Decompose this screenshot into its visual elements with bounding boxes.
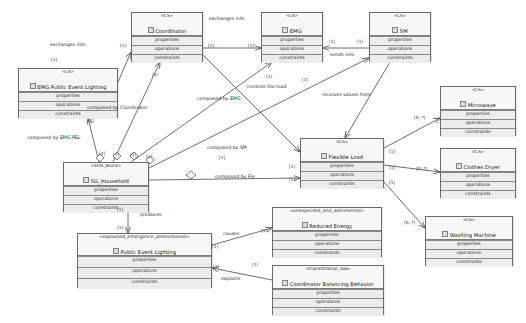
class-name-flexible_load: Flexible Load <box>328 154 363 160</box>
class-compartment-properties-sg_household[interactable]: properties <box>64 186 148 195</box>
class-header-clothes_dryer: «CS»Clothes Dryer <box>441 149 515 172</box>
class-header-microwave: «CS»Microwave <box>441 87 515 110</box>
class-compartment-properties-emg[interactable]: properties <box>262 36 322 45</box>
class-compartment-operations-coordinator[interactable]: operations <box>132 45 202 54</box>
class-compartment-properties-washing_machine[interactable]: properties <box>426 240 512 249</box>
class-compartment-operations-microwave[interactable]: operations <box>441 119 515 128</box>
class-name-row-microwave: Microwave <box>442 93 514 110</box>
class-compartment-operations-sm[interactable]: operations <box>370 45 430 54</box>
class-compartment-properties-sm[interactable]: properties <box>370 36 430 45</box>
multiplicity-m-micro: [0..*] <box>414 116 425 120</box>
class-compartment-constraints-emg_public_event_lighting[interactable]: constraints <box>19 110 117 119</box>
class-box-microwave[interactable]: «CS»Microwavepropertiesoperationsconstra… <box>440 86 516 136</box>
block-icon <box>282 27 288 33</box>
multiplicity-m-coord-left: [1] <box>120 44 126 48</box>
class-compartment-constraints-reduced_energy[interactable]: constraints <box>273 249 381 258</box>
class-compartment-operations-washing_machine[interactable]: operations <box>426 249 512 258</box>
multiplicity-m-emg-left: [1] <box>248 44 254 48</box>
class-compartment-constraints-coordinator[interactable]: constraints <box>132 54 202 63</box>
edge-label-produces: produces <box>140 213 162 218</box>
multiplicity-m-house-top-a: [4] <box>99 152 105 156</box>
class-header-public_event_lighting: «explained_emergence_phenomenon»Public E… <box>78 234 211 256</box>
class-box-flexible_load[interactable]: «CS»Flexible Loadpropertiesoperationscon… <box>300 138 384 188</box>
class-compartment-properties-coordinator[interactable]: properties <box>132 36 202 45</box>
class-compartment-constraints-sm[interactable]: constraints <box>370 54 430 63</box>
class-name-row-coordinator: Coordinator <box>133 19 201 36</box>
class-compartment-constraints-clothes_dryer[interactable]: constraints <box>441 190 515 199</box>
class-box-coordinator[interactable]: «CS»Coordinatorpropertiesoperationsconst… <box>131 12 203 62</box>
edge-label-controls-the-load: controls the load <box>247 85 286 90</box>
class-box-sm[interactable]: «CS»SMpropertiesoperationsconstraints <box>369 12 431 62</box>
block-icon <box>282 280 288 286</box>
edge-label-explains: explains <box>221 277 240 282</box>
class-compartment-constraints-coordinator_balancing[interactable]: constraints <box>273 307 383 316</box>
class-name-row-emg_public_event_lighting: EMG Public Event Lighting <box>20 75 116 92</box>
edge-label-exchanges-info-right: exchanges info <box>209 17 244 22</box>
multiplicity-m-coord-right: [1] <box>208 44 214 48</box>
class-header-emg_public_event_lighting: «CS»EMG Public Event Lighting <box>19 69 117 92</box>
class-name-row-emg: EMG <box>263 19 321 36</box>
class-header-sg_household: «SOS_Block»SG_Household <box>64 163 148 186</box>
class-header-coordinator: «CS»Coordinator <box>132 13 202 36</box>
block-icon <box>302 222 308 228</box>
multiplicity-m-fl-right-b: [1] <box>389 166 395 170</box>
class-compartment-properties-public_event_lighting[interactable]: properties <box>78 256 211 267</box>
class-name-emg_public_event_lighting: EMG Public Event Lighting <box>37 84 106 90</box>
class-box-sg_household[interactable]: «SOS_Block»SG_Householdpropertiesoperati… <box>63 162 149 212</box>
class-box-reduced_energy[interactable]: «unexpected_and_detrimental»Reduced Ener… <box>272 207 382 257</box>
edge-receives-values-from <box>345 62 390 138</box>
class-header-emg: «CS»EMG <box>262 13 322 36</box>
class-box-public_event_lighting[interactable]: «explained_emergence_phenomenon»Public E… <box>77 233 212 288</box>
class-compartment-operations-coordinator_balancing[interactable]: operations <box>273 298 383 307</box>
multiplicity-m-explains-a: [1] <box>213 265 219 269</box>
class-box-emg[interactable]: «CS»EMGpropertiesoperationsconstraints <box>261 12 323 62</box>
class-compartment-operations-clothes_dryer[interactable]: operations <box>441 181 515 190</box>
multiplicity-m-causes-a: [1] <box>212 245 218 249</box>
class-compartment-properties-clothes_dryer[interactable]: properties <box>441 172 515 181</box>
class-compartment-operations-reduced_energy[interactable]: operations <box>273 240 381 249</box>
class-header-flexible_load: «CS»Flexible Load <box>301 139 383 162</box>
class-name-row-sg_household: SG_Household <box>65 169 147 186</box>
class-compartment-constraints-emg[interactable]: constraints <box>262 54 322 63</box>
class-compartment-constraints-microwave[interactable]: constraints <box>441 128 515 137</box>
edge-label-causes: causes <box>223 232 239 237</box>
class-name-row-sm: SM <box>371 19 429 36</box>
block-icon <box>148 27 154 33</box>
class-compartment-properties-reduced_energy[interactable]: properties <box>273 231 381 240</box>
block-icon <box>460 101 466 107</box>
multiplicity-m-house-top-c: [1] <box>130 153 136 157</box>
edge-composed-by-emg-pel <box>88 118 99 162</box>
class-compartment-constraints-sg_household[interactable]: constraints <box>64 204 148 213</box>
block-icon <box>113 248 119 254</box>
class-name-sm: SM <box>400 28 408 34</box>
class-name-row-clothes_dryer: Clothes Dryer <box>442 155 514 172</box>
class-name-row-reduced_energy: Reduced Energy <box>274 214 380 231</box>
multiplicity-m-fle-in: [1] <box>289 165 295 169</box>
multiplicity-m-sm-down: [1] <box>302 78 308 82</box>
class-name-row-washing_machine: Washing Machine <box>427 223 511 240</box>
class-compartment-properties-emg_public_event_lighting[interactable]: properties <box>19 92 117 101</box>
class-compartment-properties-coordinator_balancing[interactable]: properties <box>273 289 383 298</box>
multiplicity-m-exch-left-low: [1] <box>51 58 57 62</box>
multiplicity-m-fle-left: [1] <box>289 178 295 182</box>
class-compartment-constraints-public_event_lighting[interactable]: constraints <box>78 278 211 289</box>
class-compartment-constraints-flexible_load[interactable]: constraints <box>301 180 383 189</box>
class-name-reduced_energy: Reduced Energy <box>309 223 352 229</box>
class-compartment-constraints-washing_machine[interactable]: constraints <box>426 258 512 267</box>
multiplicity-m-pel-bottom: [1] <box>88 119 94 123</box>
edge-controls-the-load <box>203 55 300 152</box>
class-compartment-properties-flexible_load[interactable]: properties <box>301 162 383 171</box>
edge-label-composed-by-fle: composed by Fle <box>215 175 255 180</box>
class-compartment-properties-microwave[interactable]: properties <box>441 110 515 119</box>
class-compartment-operations-flexible_load[interactable]: operations <box>301 171 383 180</box>
class-name-row-flexible_load: Flexible Load <box>302 145 382 162</box>
multiplicity-m-sm-left: [1] <box>357 40 363 44</box>
class-box-clothes_dryer[interactable]: «CS»Clothes Dryerpropertiesoperationscon… <box>440 148 516 198</box>
class-box-coordinator_balancing[interactable]: «transOrdinal_law»Coordinator Balancing … <box>272 265 384 315</box>
class-compartment-operations-public_event_lighting[interactable]: operations <box>78 267 211 278</box>
class-header-reduced_energy: «unexpected_and_detrimental»Reduced Ener… <box>273 208 381 231</box>
class-box-washing_machine[interactable]: «CS»Washing Machinepropertiesoperationsc… <box>425 216 513 266</box>
class-compartment-operations-sg_household[interactable]: operations <box>64 195 148 204</box>
multiplicity-m-house-top-d: [1] <box>146 155 152 159</box>
class-compartment-operations-emg[interactable]: operations <box>262 45 322 54</box>
